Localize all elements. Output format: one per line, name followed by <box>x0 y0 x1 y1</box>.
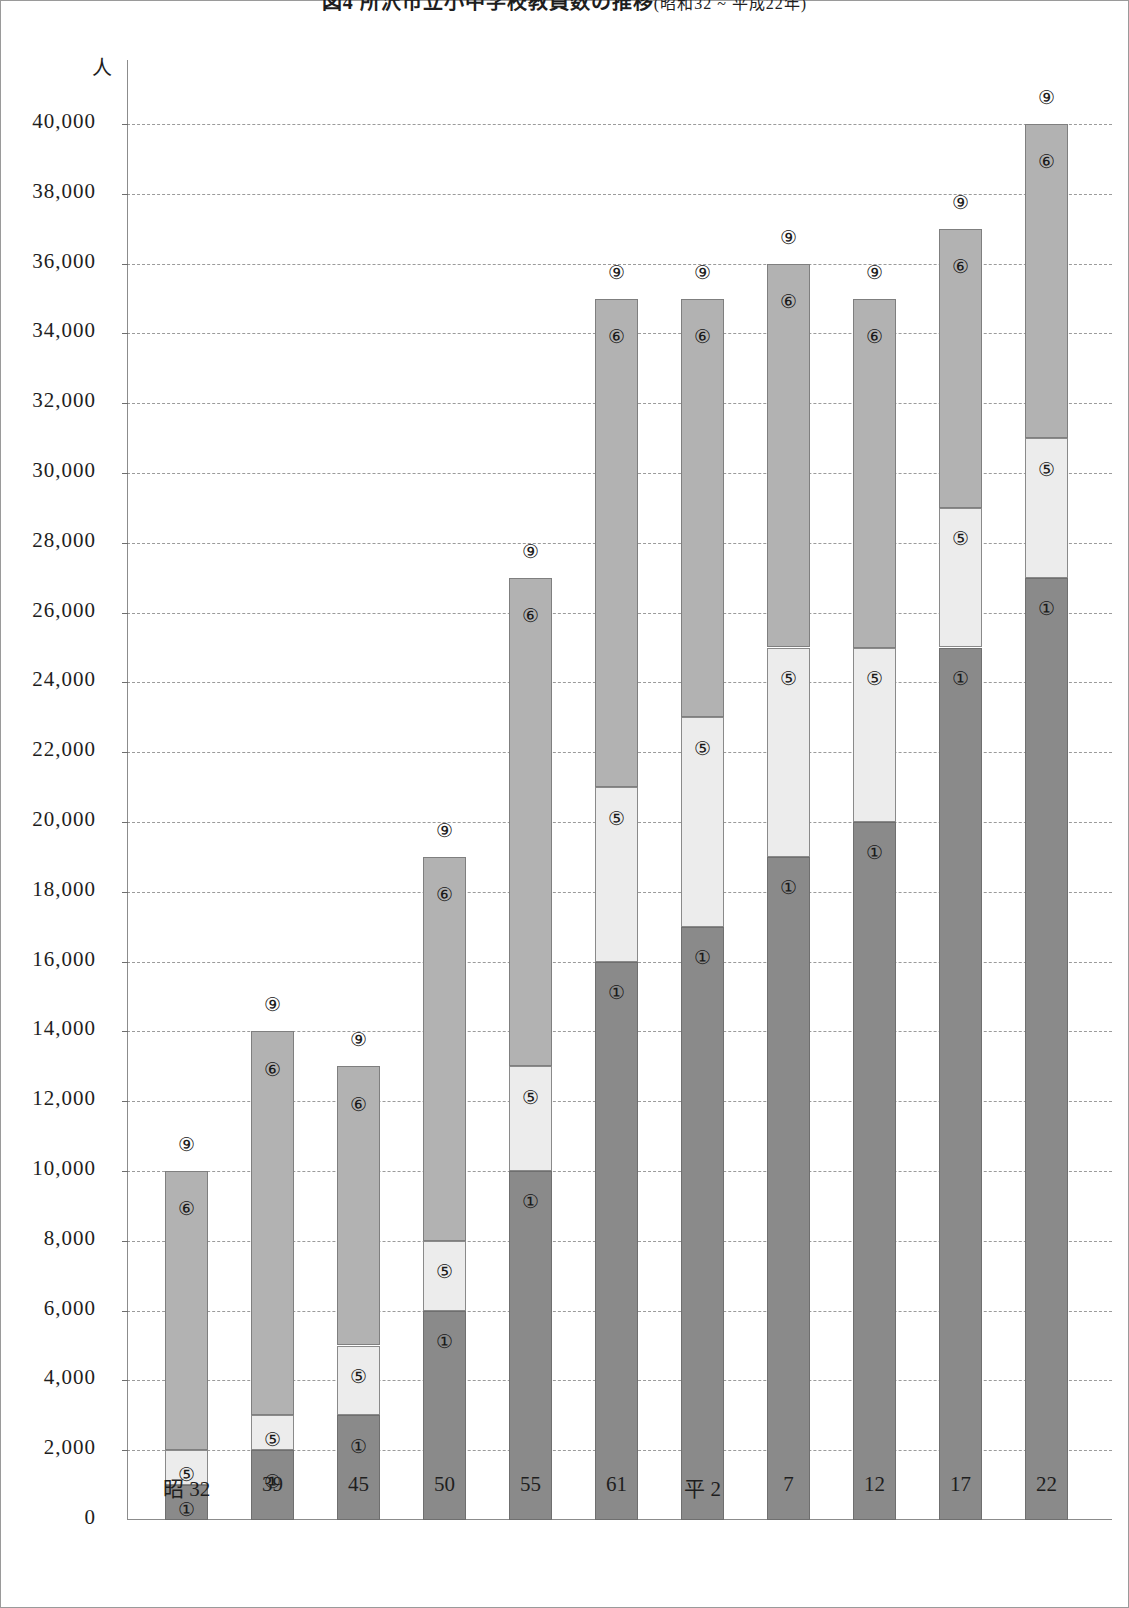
y-axis-tick-label: 34,000 <box>32 318 96 343</box>
bar-total-mark: ⑨ <box>509 540 552 563</box>
y-axis-tick <box>122 1171 128 1172</box>
bar-segment-bottom[interactable] <box>853 822 896 1520</box>
bar-segment-middle[interactable] <box>509 1066 552 1171</box>
bar-segment-bottom[interactable] <box>509 1171 552 1520</box>
bar-segment-bottom[interactable] <box>939 648 982 1521</box>
y-axis-tick-label: 28,000 <box>32 528 96 553</box>
y-axis-tick-label: 30,000 <box>32 458 96 483</box>
bar-segment-top[interactable] <box>595 299 638 788</box>
y-axis-tick <box>122 1380 128 1381</box>
bar-segment-top[interactable] <box>767 264 810 648</box>
y-axis-tick-label: 10,000 <box>32 1156 96 1181</box>
y-axis-tick <box>122 473 128 474</box>
bar-stack: ①⑤⑥ <box>251 60 294 1520</box>
bar-total-mark: ⑨ <box>337 1028 380 1051</box>
y-axis-tick-label: 8,000 <box>44 1226 96 1251</box>
bar-stack: ①⑤⑥ <box>165 60 208 1520</box>
chart-title-range: (昭和32 ~ 平成22年) <box>654 0 807 12</box>
y-axis-tick <box>122 1450 128 1451</box>
bar-segment-middle[interactable] <box>767 648 810 857</box>
y-axis-tick <box>122 822 128 823</box>
bar-total-mark: ⑨ <box>767 226 810 249</box>
y-axis-tick <box>122 613 128 614</box>
y-axis-tick-label: 16,000 <box>32 947 96 972</box>
y-axis-tick-label: 18,000 <box>32 877 96 902</box>
y-axis-tick-label: 6,000 <box>44 1296 96 1321</box>
x-axis-tick-label: 22 <box>992 1472 1102 1497</box>
y-axis-tick-label: 40,000 <box>32 109 96 134</box>
y-axis-tick-label: 26,000 <box>32 598 96 623</box>
bar-segment-middle[interactable] <box>853 648 896 823</box>
bar-segment-top[interactable] <box>681 299 724 718</box>
bar-segment-top[interactable] <box>509 578 552 1067</box>
y-axis-tick <box>122 124 128 125</box>
y-axis-tick-label: 36,000 <box>32 249 96 274</box>
bar-total-mark: ⑨ <box>595 261 638 284</box>
bar-stack: ①⑤⑥ <box>939 60 982 1520</box>
bar-segment-top[interactable] <box>251 1031 294 1415</box>
y-axis-tick <box>122 1101 128 1102</box>
bar-total-mark: ⑨ <box>853 261 896 284</box>
y-axis-tick-label: 12,000 <box>32 1086 96 1111</box>
bar-segment-bottom[interactable] <box>767 857 810 1520</box>
y-axis-tick <box>122 264 128 265</box>
chart-title-main: 図4 所沢市立小中学校教員数の推移 <box>322 0 654 13</box>
bar-total-mark: ⑨ <box>423 819 466 842</box>
bar-segment-bottom[interactable] <box>337 1415 380 1520</box>
y-axis-tick <box>122 1241 128 1242</box>
bar-total-mark: ⑨ <box>165 1133 208 1156</box>
y-axis-tick-label: 22,000 <box>32 737 96 762</box>
bar-stack: ①⑤⑥ <box>1025 60 1068 1520</box>
y-axis-line <box>127 60 128 1520</box>
bar-total-mark: ⑨ <box>681 261 724 284</box>
bar-total-mark: ⑨ <box>251 993 294 1016</box>
y-axis-tick-label: 38,000 <box>32 179 96 204</box>
y-axis-tick-label: 24,000 <box>32 667 96 692</box>
bar-segment-top[interactable] <box>337 1066 380 1345</box>
y-axis-tick-label: 20,000 <box>32 807 96 832</box>
bar-segment-top[interactable] <box>1025 124 1068 438</box>
bar-segment-top[interactable] <box>939 229 982 508</box>
bar-segment-middle[interactable] <box>251 1415 294 1450</box>
bar-segment-middle[interactable] <box>939 508 982 648</box>
y-axis-tick-label: 2,000 <box>44 1435 96 1460</box>
y-axis-tick <box>122 333 128 334</box>
chart-plot-area: ①⑤⑥①⑤⑥①⑤⑥①⑤⑥①⑤⑥①⑤⑥①⑤⑥①⑤⑥①⑤⑥①⑤⑥①⑤⑥ ⑨⑨⑨⑨⑨⑨… <box>127 60 1112 1520</box>
chart-title: 図4 所沢市立小中学校教員数の推移(昭和32 ~ 平成22年) <box>0 0 1129 15</box>
bar-segment-bottom[interactable] <box>595 962 638 1520</box>
bar-stack: ①⑤⑥ <box>509 60 552 1520</box>
y-axis-tick <box>122 682 128 683</box>
y-axis-tick <box>122 892 128 893</box>
bar-segment-middle[interactable] <box>337 1346 380 1416</box>
bar-segment-top[interactable] <box>165 1171 208 1450</box>
bar-segment-bottom[interactable] <box>681 927 724 1520</box>
bar-total-mark: ⑨ <box>1025 86 1068 109</box>
y-axis-tick-label: 4,000 <box>44 1365 96 1390</box>
y-axis-tick-label: 32,000 <box>32 388 96 413</box>
bar-stack: ①⑤⑥ <box>767 60 810 1520</box>
bar-stack: ①⑤⑥ <box>337 60 380 1520</box>
y-axis-unit-label: 人 <box>92 52 112 81</box>
y-axis-tick <box>122 1031 128 1032</box>
bar-total-mark: ⑨ <box>939 191 982 214</box>
bar-segment-middle[interactable] <box>1025 438 1068 578</box>
bar-segment-middle[interactable] <box>423 1241 466 1311</box>
y-axis-tick <box>122 1311 128 1312</box>
y-axis-tick <box>122 752 128 753</box>
bar-stack: ①⑤⑥ <box>423 60 466 1520</box>
bar-segment-middle[interactable] <box>681 717 724 926</box>
y-axis-tick-label: 0 <box>85 1505 97 1530</box>
y-axis-tick <box>122 962 128 963</box>
bar-segment-bottom[interactable] <box>1025 578 1068 1520</box>
bar-segment-middle[interactable] <box>595 787 638 962</box>
bar-segment-top[interactable] <box>423 857 466 1241</box>
y-axis-tick-label: 14,000 <box>32 1016 96 1041</box>
y-axis-tick <box>122 403 128 404</box>
y-axis-tick <box>122 194 128 195</box>
bar-segment-top[interactable] <box>853 299 896 648</box>
y-axis-tick <box>122 543 128 544</box>
